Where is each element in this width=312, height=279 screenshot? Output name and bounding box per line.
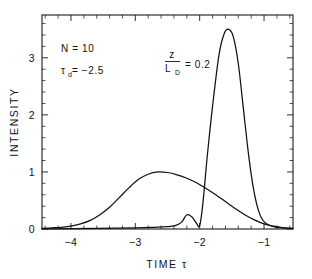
y-tick-label: 3 (29, 52, 35, 64)
tau-symbol: τ (61, 65, 66, 76)
y-axis-title: INTENSITY (8, 87, 20, 156)
annotation-z-over-ld-value: z L D = 0.2 (165, 49, 211, 76)
x-tick-label: −1 (258, 236, 271, 248)
z-over-ld-equals-value: = 0.2 (185, 59, 211, 70)
x-axis-tick-labels: −4−3−2−1 (65, 236, 271, 248)
y-tick-label: 1 (29, 166, 35, 178)
x-tick-label: −4 (65, 236, 78, 248)
y-tick-label: 2 (29, 109, 35, 121)
fraction-numerator: z (169, 49, 175, 60)
data-series-group (42, 29, 293, 229)
y-axis-tick-labels: 0123 (29, 52, 35, 235)
x-tick-label: −3 (129, 236, 142, 248)
intensity-vs-time-chart: −4−3−2−1 0123 TIME τ INTENSITY N = 10 τ … (0, 0, 312, 279)
x-tick-label: −2 (193, 236, 206, 248)
tau-d-equals-value: = −2.5 (72, 65, 104, 76)
data-curve-1 (42, 29, 293, 229)
annotation-tau-d-value: τ d = −2.5 (61, 65, 104, 78)
y-tick-label: 0 (29, 223, 35, 235)
fraction-denominator: L (165, 63, 171, 74)
annotation-n-value: N = 10 (61, 43, 94, 54)
fraction-denominator-subscript: D (175, 69, 180, 76)
figure-container: −4−3−2−1 0123 TIME τ INTENSITY N = 10 τ … (0, 0, 312, 279)
x-axis-title: TIME τ (146, 258, 188, 270)
